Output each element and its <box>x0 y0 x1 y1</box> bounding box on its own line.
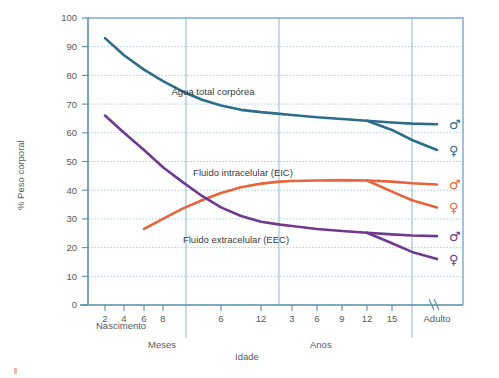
y-tick-label-80: 80 <box>66 70 77 81</box>
x-tick-label-15-10: 15 <box>387 313 398 324</box>
end-marker-male-0-icon: ♂ <box>449 117 461 132</box>
end-marker-male-4-icon: ♂ <box>449 229 461 244</box>
x-tick-label-6-4: 6 <box>218 313 223 324</box>
chart-figure: 0102030405060708090100 24686123691215Adu… <box>0 0 499 378</box>
body-fluid-composition-line-chart: 0102030405060708090100 24686123691215Adu… <box>0 0 499 378</box>
end-marker-male-2-icon: ♂ <box>449 177 461 192</box>
x-axis-title: Idade <box>235 351 259 362</box>
x-tick-label-9-8: 9 <box>339 313 344 324</box>
y-tick-label-0: 0 <box>72 299 77 310</box>
end-marker-female-5-icon: ♀ <box>449 252 459 267</box>
y-tick-label-30: 30 <box>66 213 77 224</box>
x-axis-ticks: 24686123691215Adulto <box>102 305 450 324</box>
plot-background <box>88 18 463 305</box>
x-tick-label-6-7: 6 <box>314 313 319 324</box>
annotation-0: Água total corpórea <box>172 86 256 97</box>
y-tick-label-90: 90 <box>66 41 77 52</box>
x-tick-label-3-6: 3 <box>289 313 294 324</box>
y-tick-label-10: 10 <box>66 271 77 282</box>
y-axis-title: % Peso corporal <box>15 140 26 210</box>
annotation-2: Fluido extracelular (EEC) <box>183 234 289 245</box>
x-tick-label-12-9: 12 <box>362 313 373 324</box>
end-marker-female-1-icon: ♀ <box>449 143 459 158</box>
x-tick-label-8-3: 8 <box>160 313 165 324</box>
x-tick-label-Adulto-11: Adulto <box>424 313 451 324</box>
y-tick-label-60: 60 <box>66 127 77 138</box>
page-corner-mark <box>14 368 17 374</box>
y-tick-label-40: 40 <box>66 185 77 196</box>
end-marker-female-3-icon: ♀ <box>449 200 459 215</box>
y-tick-label-100: 100 <box>61 12 77 23</box>
y-tick-label-20: 20 <box>66 242 77 253</box>
x-segment-label-nascimento: Nascimento <box>96 320 146 331</box>
y-tick-label-70: 70 <box>66 99 77 110</box>
x-segment-label-meses: Meses <box>148 339 176 350</box>
y-tick-label-50: 50 <box>66 156 77 167</box>
y-axis-ticks: 0102030405060708090100 <box>61 12 88 310</box>
annotation-1: Fluido intracelular (EIC) <box>193 167 293 178</box>
x-segment-label-anos: Anos <box>310 339 332 350</box>
x-tick-label-12-5: 12 <box>256 313 267 324</box>
